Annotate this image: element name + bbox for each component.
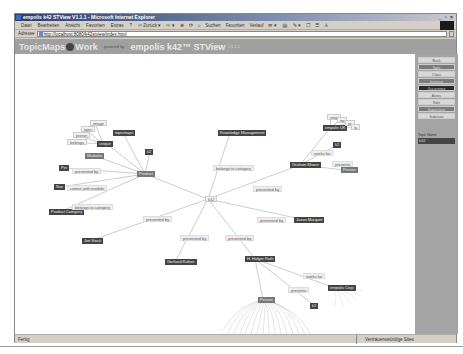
sidebar-back-button[interactable]: Back: [418, 57, 455, 63]
topic-node-jason-marquet[interactable]: Jason Marquet: [294, 217, 324, 223]
topic-node-person[interactable]: Person: [258, 297, 275, 303]
edge-label: presented by: [143, 216, 172, 222]
topic-node-preser[interactable]: preser: [73, 132, 90, 138]
topic-name-input[interactable]: k42: [418, 138, 455, 144]
edge-label: presents: [332, 161, 353, 167]
menu-bearbeiten[interactable]: Bearbeiten: [38, 23, 60, 28]
stop-icon[interactable]: ⊗: [180, 23, 184, 28]
powered-by: powered by: [104, 44, 125, 49]
edge-label: presents: [288, 287, 309, 293]
topic-node-belongs[interactable]: belongs: [67, 139, 87, 145]
topic-node-gerhard-kofner[interactable]: Gerhard Kofner: [165, 259, 197, 265]
topic-node-jim-stock[interactable]: Jim Stock: [82, 238, 103, 244]
sidebar-role-button[interactable]: Role: [418, 99, 455, 105]
topic-node-nav[interactable]: Nav: [54, 184, 65, 190]
sidebar-class-button[interactable]: Class: [418, 71, 455, 77]
topic-node-graham-moore[interactable]: Graham Moore: [290, 162, 321, 168]
edge-label: works for: [311, 150, 333, 156]
menu-favoriten[interactable]: Favoriten: [86, 23, 105, 28]
sidebar-topic-button[interactable]: Topic: [418, 64, 455, 70]
topic-node-empolis-corp[interactable]: empolis Corp: [328, 285, 356, 291]
topic-name-label: Topic Name: [418, 133, 455, 137]
home-icon[interactable]: ⌂: [198, 23, 201, 28]
windows-logo-icon: [440, 21, 454, 30]
title-bar: empolis k42 STView V1.1.1 - Microsoft In…: [15, 14, 456, 21]
topic-node-product[interactable]: Product: [137, 171, 155, 177]
topic-node-modules[interactable]: Modules: [85, 153, 104, 159]
menu-extras[interactable]: Extras: [111, 23, 124, 28]
window-controls[interactable]: _ ▫ ×: [439, 14, 454, 21]
history-button[interactable]: Verlauf: [249, 23, 263, 28]
search-button[interactable]: Suchen: [205, 23, 220, 28]
mail-icon[interactable]: ✉ ▾: [268, 23, 276, 28]
edge-label: works for: [303, 273, 325, 279]
divider: [0, 346, 463, 347]
menu-help[interactable]: ?: [130, 23, 133, 28]
messenger-icon[interactable]: ☰: [315, 23, 319, 28]
discuss-icon[interactable]: ☐: [306, 23, 310, 28]
sidebar-superclass-button[interactable]: Superclass: [418, 106, 455, 112]
topic-node-k2[interactable]: k2: [333, 142, 341, 148]
sidebar-assoc-button[interactable]: Assoc: [418, 92, 455, 98]
topic-node-k2[interactable]: k2: [145, 149, 153, 155]
address-input[interactable]: http://localhost:8080/k42stview/index.ht…: [37, 31, 447, 37]
product-name: empolis k42™ STView: [130, 42, 225, 52]
sidebar-occurrence-button[interactable]: Occurrence: [418, 85, 455, 91]
back-button[interactable]: ⇦ Zurück ▾: [138, 23, 161, 28]
brand-topicmaps: TopicMaps: [19, 42, 65, 52]
menu-bar: Datei Bearbeiten Ansicht Favoriten Extra…: [15, 21, 456, 30]
security-zone: Vertrauenswürdige Sites: [356, 335, 456, 344]
topic-map-canvas[interactable]: k42 Product Knowledge Management Graham …: [15, 54, 415, 334]
at-logo-icon: [66, 43, 74, 51]
window-title: empolis k42 STView V1.1.1 - Microsoft In…: [23, 14, 155, 20]
menu-ansicht[interactable]: Ansicht: [65, 23, 80, 28]
edge-label: presented by: [225, 235, 254, 241]
topic-node-k2[interactable]: k2: [310, 303, 318, 309]
edge-label: comes with module: [67, 185, 107, 191]
product-version: V1.1.1: [228, 44, 240, 49]
address-label: Adresse: [18, 31, 35, 36]
browser-window: empolis k42 STView V1.1.1 - Microsoft In…: [14, 13, 457, 343]
edge-label: belongs to category: [72, 204, 113, 210]
app-header: TopicMaps Work powered by empolis k42™ S…: [15, 39, 456, 54]
topic-node-k42[interactable]: k42: [205, 196, 217, 202]
topic-node-knowledge-management[interactable]: Knowledge Management: [218, 130, 266, 136]
navigation-sidebar: Back Topic Class Instance Occurrence Ass…: [415, 54, 458, 334]
forward-button[interactable]: ⇨ ▾: [166, 23, 174, 28]
user-icon[interactable]: ♙: [324, 23, 328, 28]
favorites-button[interactable]: Favoriten: [226, 23, 245, 28]
edge-label: presented by: [72, 168, 101, 174]
edge-label: presented by: [257, 217, 286, 223]
status-bar: Fertig Vertrauenswürdige Sites: [15, 334, 456, 343]
edit-icon[interactable]: ✎ ▾: [293, 23, 301, 28]
topic-node-empolis-uk[interactable]: empolis UK: [323, 125, 347, 131]
sidebar-instance-button[interactable]: Instance: [418, 78, 455, 84]
topic-node-unique[interactable]: unique: [97, 141, 113, 147]
print-icon[interactable]: 🖨: [282, 23, 288, 28]
edge-label: presented by: [180, 235, 209, 241]
graph-edges: [15, 54, 415, 334]
address-url: http://localhost:8080/k42stview/index.ht…: [44, 32, 127, 37]
topic-node-topicmaps[interactable]: topicmaps: [113, 130, 135, 136]
edge-label: presented by: [253, 186, 282, 192]
address-dropdown-button[interactable]: [449, 31, 454, 37]
status-text: Fertig: [18, 337, 356, 342]
topic-node-ta[interactable]: ta: [351, 124, 360, 130]
sidebar-subclass-button[interactable]: Subclass: [418, 113, 455, 119]
address-bar: Adresse http://localhost:8080/k42stview/…: [15, 30, 456, 38]
brand-work: Work: [75, 42, 97, 52]
page-icon: [39, 32, 43, 36]
topic-node-per[interactable]: Per: [59, 165, 69, 171]
ie-icon: [16, 15, 21, 20]
refresh-icon[interactable]: ⟳: [189, 23, 193, 28]
edge-label: belongs to category: [213, 165, 254, 171]
topic-node-holger-rath[interactable]: H. Holger Rath: [245, 256, 275, 262]
menu-datei[interactable]: Datei: [21, 23, 32, 28]
